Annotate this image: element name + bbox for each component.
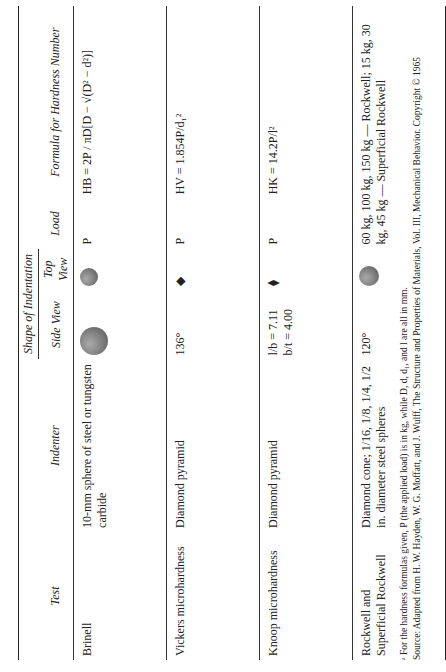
- row-vickers: Vickers microhardnessDiamond pyramid136°…: [167, 6, 260, 660]
- col-side: Side View: [39, 290, 74, 359]
- top-view: ◆: [167, 249, 260, 290]
- col-indenter: Indenter: [39, 359, 74, 532]
- cell: 10-mm sphere of steel or tungsten carbid…: [74, 359, 167, 532]
- indent-icon: [80, 268, 98, 286]
- col-test: Test: [39, 532, 74, 660]
- footnote: ᵃ For the hardness formulas given, P (th…: [398, 10, 411, 660]
- side-view: 136°: [167, 290, 260, 359]
- cell: HK = 14.2P/l²: [260, 6, 353, 198]
- side-view: l/b = 7.11 b/t = 4.00: [260, 290, 353, 359]
- cell: HV = 1.854P/d₁²: [167, 6, 260, 198]
- row-brinell: Brinell10-mm sphere of steel or tungsten…: [74, 6, 167, 660]
- cell: P: [260, 198, 353, 248]
- col-load: Load: [39, 198, 74, 248]
- top-view: [74, 249, 167, 290]
- cell: Brinell: [74, 532, 167, 660]
- cell: HB = 2P / πD[D − √(D² − d²)]: [74, 6, 167, 198]
- row-knoop: Knoop microhardnessDiamond pyramidl/b = …: [260, 6, 353, 660]
- sphere-icon: [80, 327, 108, 355]
- source-note: Source: Adapted from H. W. Hayden, W. G.…: [411, 10, 424, 660]
- col-top: Top View: [39, 249, 74, 290]
- knoop-icon: ⧫: [266, 280, 280, 286]
- cell: Diamond pyramid: [167, 359, 260, 532]
- cell: Vickers microhardness: [167, 532, 260, 660]
- cell: P: [74, 198, 167, 248]
- side-view: [74, 290, 167, 359]
- pyramid-icon: ◆: [173, 277, 187, 286]
- shape-group-header: Shape of Indentation: [19, 249, 39, 360]
- col-formula: Formula for Hardness Number: [39, 6, 74, 198]
- indent-icon: [359, 266, 379, 286]
- hardness-table: Shape of Indentation TestIndenterSide Vi…: [18, 6, 446, 660]
- cell: P: [167, 198, 260, 248]
- top-view: ⧫: [260, 249, 353, 290]
- cell: Knoop microhardness: [260, 532, 353, 660]
- footnotes: ᵃ For the hardness formulas given, P (th…: [398, 10, 424, 660]
- cell: Diamond pyramid: [260, 359, 353, 532]
